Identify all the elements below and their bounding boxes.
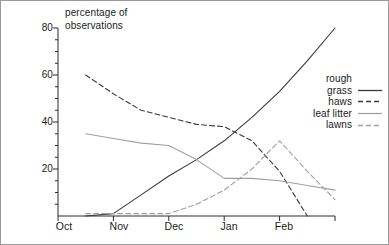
- y-axis-ticks: [53, 28, 58, 204]
- legend-item-rough-grass: grass: [263, 85, 383, 97]
- legend-sample-lawns: [357, 121, 383, 130]
- legend-item-leaf-litter: leaf litter: [263, 108, 383, 120]
- series-line-leaf-litter: [86, 134, 335, 190]
- legend-sample-leaf-litter: [357, 109, 383, 118]
- x-axis-ticks: [58, 216, 335, 221]
- legend-item-lawns: lawns: [263, 119, 383, 131]
- legend-label-lawns: lawns: [326, 119, 352, 131]
- series-line-lawns: [86, 141, 335, 214]
- legend-label-haws: haws: [328, 96, 352, 108]
- legend-label-rough: rough: [326, 73, 352, 85]
- legend-item-haws: haws: [263, 96, 383, 108]
- line-chart-figure: percentage ofobservations 80 60 40 20 Oc…: [1, 1, 388, 244]
- legend-sample-rough-grass: [357, 86, 383, 95]
- legend-item-rough-grass-line1: rough: [263, 73, 383, 85]
- legend-label-leaf-litter: leaf litter: [313, 108, 352, 120]
- legend-label-grass: grass: [327, 85, 352, 97]
- legend-sample-haws: [357, 97, 383, 106]
- legend: rough grass haws leaf litter: [263, 73, 383, 131]
- chart-frame: percentage ofobservations 80 60 40 20 Oc…: [0, 0, 389, 245]
